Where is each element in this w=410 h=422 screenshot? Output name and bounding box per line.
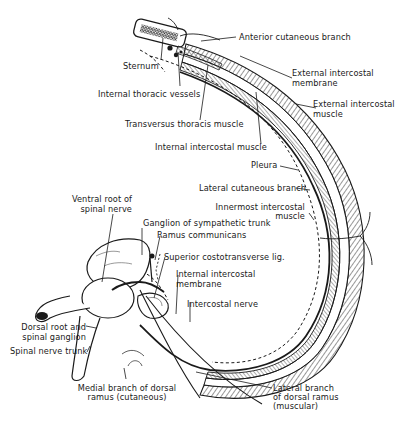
label-ganglion-sympathetic-trunk: Ganglion of sympathetic trunk bbox=[143, 219, 271, 229]
label-intercostal-nerve: Intercostal nerve bbox=[187, 300, 258, 310]
label-anterior-cutaneous-branch: Anterior cutaneous branch bbox=[239, 33, 351, 43]
label-medial-branch-2: ramus (cutaneous) bbox=[62, 393, 192, 403]
label-sternum: Sternum bbox=[123, 62, 159, 72]
label-dorsal-root-2: spinal ganglion bbox=[0, 333, 86, 343]
label-spinal-nerve-trunk: Spinal nerve trunk bbox=[10, 347, 87, 357]
label-ventral-root-2: spinal nerve bbox=[60, 205, 132, 215]
anatomy-diagram: Anterior cutaneous branch Sternum Extern… bbox=[0, 0, 410, 422]
vertebra-shape bbox=[36, 239, 169, 381]
label-superior-costotransverse-lig: Superior costotransverse lig. bbox=[164, 253, 285, 263]
label-internal-intercostal-muscle: Internal intercostal muscle bbox=[155, 143, 267, 153]
label-transversus-thoracis-muscle: Transversus thoracis muscle bbox=[125, 120, 244, 130]
label-ramus-communicans: Ramus communicans bbox=[157, 231, 246, 241]
label-external-intercostal-membrane-2: membrane bbox=[292, 79, 338, 89]
label-internal-intercostal-membrane-2: membrane bbox=[176, 280, 222, 290]
label-pleura: Pleura bbox=[251, 161, 277, 171]
label-external-intercostal-muscle-2: muscle bbox=[313, 110, 343, 120]
label-lateral-branch-3: (muscular) bbox=[273, 402, 318, 412]
label-internal-thoracic-vessels: Internal thoracic vessels bbox=[98, 90, 200, 100]
sternum-shape bbox=[133, 18, 188, 48]
label-lateral-cutaneous-branch: Lateral cutaneous branch bbox=[199, 184, 306, 194]
